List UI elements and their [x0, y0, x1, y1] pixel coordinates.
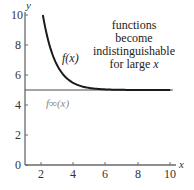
x-axis-label: x	[178, 158, 184, 170]
y-tick-label: 10	[11, 8, 23, 22]
x-tick-label: 2	[38, 167, 44, 181]
x-tick-label: 8	[135, 167, 141, 181]
y-tick-label: 8	[15, 38, 21, 52]
annotation-var: x	[152, 57, 159, 71]
x-tick-label: 6	[102, 167, 108, 181]
f-label: f(x)	[62, 51, 79, 65]
annotation: functions become indistinguishable for l…	[93, 18, 175, 71]
annotation-line: for large x	[109, 57, 159, 71]
x-tick-label: 10	[164, 167, 176, 181]
y-tick-label: 2	[15, 128, 21, 142]
finf-label: f∞(x)	[46, 97, 69, 110]
x-tick-label: 4	[70, 167, 76, 181]
chart: 0 2 4 6 8 10 2 4 6 8 10 y x f(x) f∞(x) f…	[0, 0, 194, 190]
y-tick-label: 4	[15, 98, 21, 112]
y-axis-label: y	[25, 0, 31, 11]
y-tick-label: 6	[15, 68, 21, 82]
annotation-line: become	[115, 31, 152, 45]
y-tick-label: 0	[15, 158, 21, 172]
annotation-line: functions	[112, 18, 157, 32]
annotation-text: for large	[109, 57, 153, 71]
annotation-line: indistinguishable	[93, 44, 175, 58]
